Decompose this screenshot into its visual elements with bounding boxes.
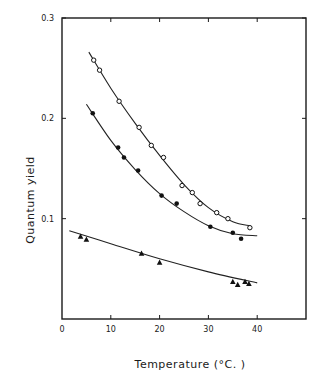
filled-circle-marker bbox=[122, 155, 127, 160]
x-tick-label: 30 bbox=[203, 325, 213, 334]
filled-circle-marker bbox=[136, 168, 141, 173]
open-circle-marker bbox=[97, 68, 101, 72]
filled-circle-marker bbox=[159, 193, 164, 198]
filled-circle-marker bbox=[90, 111, 95, 116]
x-tick-label: 10 bbox=[106, 325, 116, 334]
fit-curve bbox=[69, 231, 257, 283]
open-circle-marker bbox=[248, 225, 252, 229]
y-tick-label: 0.1 bbox=[41, 215, 54, 224]
triangle-marker bbox=[84, 237, 90, 242]
triangle-marker bbox=[235, 282, 241, 287]
open-circle-marker bbox=[92, 58, 96, 62]
open-circle-marker bbox=[226, 216, 230, 220]
y-axis-title: Quantum yield bbox=[24, 156, 37, 244]
open-circle-marker bbox=[149, 143, 153, 147]
filled-circle-marker bbox=[116, 145, 121, 150]
plot-frame bbox=[62, 18, 306, 319]
filled-circle-marker bbox=[208, 224, 213, 229]
triangle-marker bbox=[157, 260, 163, 265]
x-tick-label: 20 bbox=[155, 325, 165, 334]
open-circle-marker bbox=[198, 201, 202, 205]
plot-border bbox=[62, 18, 306, 319]
open-circle-marker bbox=[161, 155, 165, 159]
open-circle-marker bbox=[137, 125, 141, 129]
axis-ticks: 0102030400.10.20.3 bbox=[41, 14, 306, 334]
fit-curves bbox=[69, 52, 257, 283]
data-points bbox=[78, 58, 252, 287]
quantum-yield-chart: 0102030400.10.20.3 Quantum yield Tempera… bbox=[0, 0, 320, 384]
open-circle-marker bbox=[117, 99, 121, 103]
triangle-marker bbox=[230, 279, 236, 284]
x-tick-label: 40 bbox=[252, 325, 262, 334]
open-circle-marker bbox=[214, 210, 218, 214]
filled-circle-marker bbox=[239, 236, 244, 241]
fit-curve bbox=[89, 52, 250, 226]
open-circle-marker bbox=[190, 190, 194, 194]
y-tick-label: 0.3 bbox=[41, 14, 54, 23]
open-circle-marker bbox=[180, 183, 184, 187]
filled-circle-marker bbox=[174, 201, 179, 206]
filled-circle-marker bbox=[231, 230, 236, 235]
y-tick-label: 0.2 bbox=[41, 114, 54, 123]
x-tick-label: 0 bbox=[59, 325, 64, 334]
x-axis-title: Temperature (°C. ) bbox=[134, 358, 246, 371]
